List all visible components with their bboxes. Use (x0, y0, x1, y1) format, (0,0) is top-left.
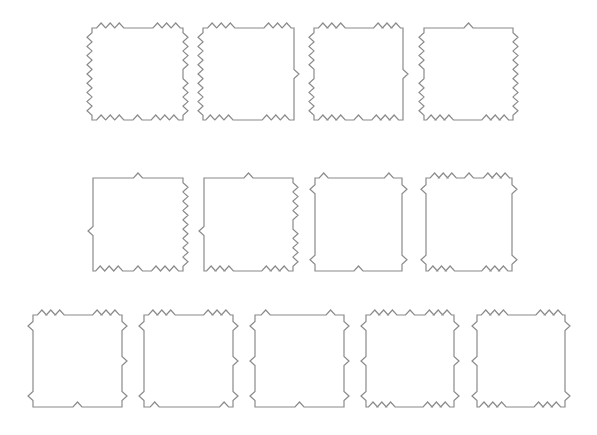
pieces-layer (28, 23, 570, 407)
piece-outline (87, 23, 188, 120)
puzzle-piece-r3-p4 (361, 310, 459, 407)
piece-outline (361, 310, 459, 407)
puzzle-piece-r2-p1 (88, 173, 188, 271)
puzzle-piece-r1-p1 (87, 23, 188, 120)
piece-outline (310, 173, 407, 271)
puzzle-piece-r3-p5 (472, 310, 570, 407)
puzzle-piece-r3-p3 (250, 310, 349, 407)
piece-outline (419, 23, 518, 120)
puzzle-piece-r2-p2 (199, 173, 298, 271)
puzzle-piece-r1-p2 (198, 23, 299, 120)
piece-outline (28, 310, 127, 407)
piece-outline (250, 310, 349, 407)
piece-outline (421, 173, 517, 271)
piece-outline (199, 173, 298, 271)
puzzle-piece-r2-p4 (421, 173, 517, 271)
piece-outline (309, 23, 408, 120)
puzzle-pieces-canvas (0, 0, 597, 435)
piece-outline (88, 173, 188, 271)
puzzle-piece-r3-p2 (139, 310, 238, 407)
puzzle-piece-r2-p3 (310, 173, 407, 271)
puzzle-piece-r3-p1 (28, 310, 127, 407)
piece-outline (139, 310, 238, 407)
puzzle-piece-r1-p4 (419, 23, 518, 120)
puzzle-piece-r1-p3 (309, 23, 408, 120)
piece-outline (198, 23, 299, 120)
piece-outline (472, 310, 570, 407)
